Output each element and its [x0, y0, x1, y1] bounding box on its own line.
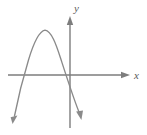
graph-canvas: y x [0, 0, 147, 135]
graph-figure: y x [0, 0, 147, 135]
x-axis-arrowhead-icon [121, 72, 130, 78]
x-axis-label: x [133, 69, 139, 81]
parabola-left-arrowhead-icon [11, 115, 18, 124]
parabola-right-arrowhead-icon [76, 110, 83, 120]
y-axis-label: y [73, 2, 79, 14]
y-axis-arrowhead-icon [67, 16, 73, 25]
